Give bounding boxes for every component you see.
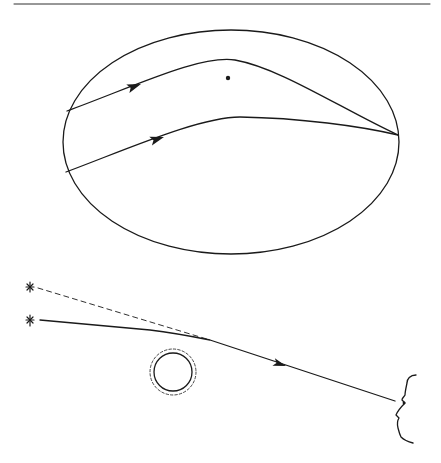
lower-light-ray	[66, 117, 398, 172]
apparent-ray-dashed	[38, 288, 210, 340]
arrow-head-icon	[272, 358, 287, 370]
lensing-scene	[26, 282, 416, 443]
arrow-head-icon	[126, 80, 142, 93]
inset-ellipse	[63, 30, 399, 254]
point-mass-dot	[226, 76, 230, 80]
apparent-star-icon	[26, 282, 34, 292]
observer-eye	[403, 402, 406, 405]
diagram-canvas	[0, 0, 441, 463]
inset-magnified-view	[63, 30, 399, 254]
true-star-icon	[26, 315, 34, 326]
true-light-path	[40, 320, 395, 401]
massive-body	[154, 353, 192, 391]
upper-light-ray	[67, 59, 398, 135]
observer-face-icon	[396, 375, 416, 443]
massive-body-halo	[150, 349, 196, 395]
